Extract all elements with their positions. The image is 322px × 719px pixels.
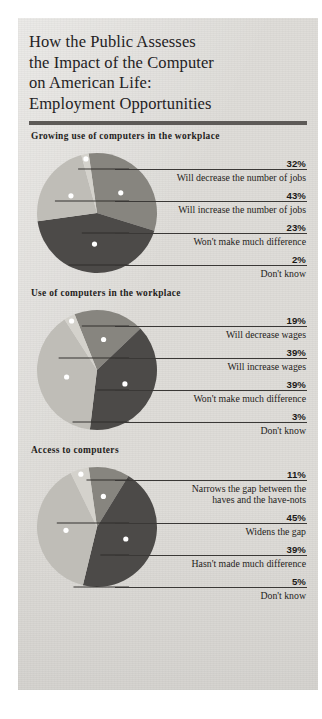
callout-percent: 3% bbox=[115, 411, 307, 422]
callout-row: 19% Will decrease wages bbox=[115, 315, 307, 340]
callout-row: 3% Don't know bbox=[115, 411, 307, 436]
callout-percent: 11% bbox=[115, 469, 307, 480]
callout-label: Will increase the number of jobs bbox=[115, 202, 307, 215]
callout-label-line-1: Narrows the gap between the bbox=[192, 483, 306, 494]
callout-row: 11% Narrows the gap between the haves an… bbox=[115, 469, 307, 505]
callout-label: Widens the gap bbox=[115, 524, 307, 537]
callout-row: 32% Will decrease the number of jobs bbox=[115, 158, 307, 183]
pie-chart-2: 19% Will decrease wages 39% Will increas… bbox=[29, 301, 307, 439]
callout-percent: 23% bbox=[115, 222, 307, 233]
section-heading-1: Growing use of computers in the workplac… bbox=[29, 125, 307, 144]
section-heading-2: Use of computers in the workplace bbox=[29, 282, 307, 301]
callout-label: Don't know bbox=[115, 588, 307, 601]
callout-label: Won't make much difference bbox=[115, 234, 307, 247]
callout-list-3: 11% Narrows the gap between the haves an… bbox=[115, 458, 307, 606]
title-line-4: Employment Opportunities bbox=[29, 94, 307, 115]
callout-percent: 19% bbox=[115, 315, 307, 326]
callout-percent: 43% bbox=[115, 190, 307, 201]
callout-label: Narrows the gap between the haves and th… bbox=[115, 481, 307, 505]
pie-slice-marker-dot bbox=[92, 242, 97, 247]
callout-row: 39% Will increase wages bbox=[115, 347, 307, 372]
callout-row: 39% Won't make much difference bbox=[115, 379, 307, 404]
callout-label-line-2: haves and the have-nots bbox=[212, 494, 306, 505]
pie-chart-3: 11% Narrows the gap between the haves an… bbox=[29, 458, 307, 606]
callout-label: Will increase wages bbox=[115, 359, 307, 372]
chart-section-2: Use of computers in the workplace bbox=[29, 282, 307, 439]
title-line-3: on American Life: bbox=[29, 73, 307, 94]
callout-list-2: 19% Will decrease wages 39% Will increas… bbox=[115, 301, 307, 439]
callout-row: 2% Don't know bbox=[115, 254, 307, 279]
callout-percent: 39% bbox=[115, 347, 307, 358]
callout-label: Will decrease wages bbox=[115, 327, 307, 340]
pie-slice-marker-dot bbox=[78, 472, 83, 477]
title-line-2: the Impact of the Computer bbox=[29, 53, 307, 74]
pie-slice-marker-dot bbox=[63, 528, 68, 533]
pie-slice-marker-dot bbox=[68, 193, 73, 198]
pie-slice-marker-dot bbox=[101, 337, 106, 342]
callout-row: 43% Will increase the number of jobs bbox=[115, 190, 307, 215]
page-title: How the Public Assesses the Impact of th… bbox=[29, 18, 307, 114]
callout-label: Hasn't made much difference bbox=[115, 556, 307, 569]
callout-row: 5% Don't know bbox=[115, 576, 307, 601]
callout-label: Don't know bbox=[115, 423, 307, 436]
pie-chart-1: 32% Will decrease the number of jobs 43%… bbox=[29, 144, 307, 282]
callout-row: 39% Hasn't made much difference bbox=[115, 544, 307, 569]
callout-percent: 2% bbox=[115, 254, 307, 265]
scanned-page: How the Public Assesses the Impact of th… bbox=[18, 18, 318, 690]
callout-percent: 5% bbox=[115, 576, 307, 587]
callout-label: Won't make much difference bbox=[115, 391, 307, 404]
title-line-1: How the Public Assesses bbox=[29, 32, 307, 53]
callout-percent: 39% bbox=[115, 544, 307, 555]
callout-percent: 32% bbox=[115, 158, 307, 169]
document-page: How the Public Assesses the Impact of th… bbox=[0, 0, 322, 719]
chart-section-1: Growing use of computers in the workplac… bbox=[29, 125, 307, 282]
chart-section-3: Access to computers bbox=[29, 439, 307, 606]
callout-list-1: 32% Will decrease the number of jobs 43%… bbox=[115, 144, 307, 282]
callout-percent: 39% bbox=[115, 379, 307, 390]
section-heading-3: Access to computers bbox=[29, 439, 307, 458]
pie-slice-marker-dot bbox=[101, 494, 106, 499]
callout-row: 23% Won't make much difference bbox=[115, 222, 307, 247]
callout-label: Will decrease the number of jobs bbox=[115, 170, 307, 183]
callout-label: Don't know bbox=[115, 266, 307, 279]
callout-percent: 45% bbox=[115, 512, 307, 523]
pie-slice-marker-dot bbox=[64, 374, 69, 379]
pie-slice-marker-dot bbox=[69, 318, 74, 323]
pie-slice-marker-dot bbox=[83, 156, 88, 161]
callout-row: 45% Widens the gap bbox=[115, 512, 307, 537]
